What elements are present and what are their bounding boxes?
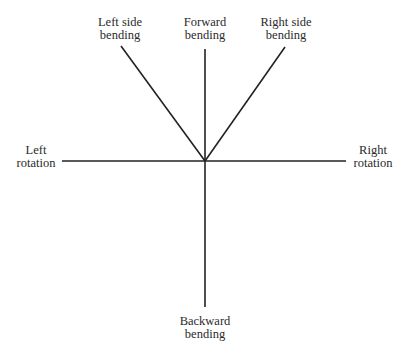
label-backward-bending: Backward bending <box>172 315 238 341</box>
label-left-side-bending: Left side bending <box>90 16 150 42</box>
movement-axes <box>0 0 407 356</box>
label-forward-bending: Forward bending <box>175 16 235 42</box>
left-side-bending-axis <box>121 46 205 161</box>
label-left-rotation: Left rotation <box>11 144 61 170</box>
label-right-rotation: Right rotation <box>348 144 398 170</box>
label-right-side-bending: Right side bending <box>251 16 321 42</box>
right-side-bending-axis <box>205 47 285 161</box>
